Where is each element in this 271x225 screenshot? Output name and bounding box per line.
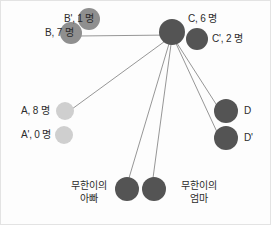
label-mother: 무한이의엄마 bbox=[169, 179, 229, 205]
label-a: A, 8 명 bbox=[21, 105, 49, 117]
label-d: D bbox=[244, 105, 251, 117]
node-mother[interactable] bbox=[142, 177, 166, 201]
node-aprime[interactable] bbox=[55, 126, 73, 144]
label-b-prime: B', 1 명 bbox=[64, 13, 94, 25]
node-c[interactable] bbox=[159, 19, 185, 45]
label-father: 무한이의아빠 bbox=[59, 179, 119, 205]
node-d[interactable] bbox=[214, 99, 238, 123]
label-c: C, 6 명 bbox=[188, 13, 217, 25]
node-dprime[interactable] bbox=[214, 126, 238, 150]
diagram-canvas: C, 6 명C', 2 명B', 1 명B, 7 명A, 8 명A', 0 명D… bbox=[0, 0, 271, 225]
edge-c-to-a bbox=[72, 36, 172, 109]
edge-c-to-father bbox=[129, 37, 171, 178]
node-a[interactable] bbox=[56, 102, 74, 120]
edge-c-to-b bbox=[78, 35, 172, 36]
label-c-prime: C', 2 명 bbox=[212, 33, 243, 45]
label-d-prime: D' bbox=[244, 132, 253, 144]
label-b: B, 7 명 bbox=[45, 27, 73, 39]
edge-c-to-mother bbox=[153, 37, 172, 178]
node-cprime[interactable] bbox=[186, 28, 208, 50]
edge-c-to-dprime bbox=[173, 37, 217, 132]
label-a-prime: A', 0 명 bbox=[21, 129, 51, 141]
